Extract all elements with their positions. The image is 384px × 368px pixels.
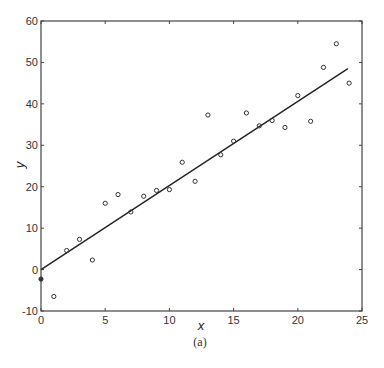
y-tick-label: 30: [26, 139, 38, 151]
data-point: [180, 160, 184, 164]
data-point: [321, 65, 325, 69]
x-tick-label: 10: [163, 314, 175, 326]
y-tick-label: 20: [26, 181, 38, 193]
regression-line: [41, 69, 348, 270]
y-tick-label: 10: [26, 222, 38, 234]
data-point: [116, 192, 120, 196]
y-tick-label: 40: [26, 98, 38, 110]
y-tick-label: 50: [26, 56, 38, 68]
data-point: [90, 258, 94, 262]
x-axis-label: x: [197, 318, 205, 333]
data-point: [334, 42, 338, 46]
x-tick-label: 25: [356, 314, 368, 326]
fitted-line: [41, 69, 348, 270]
data-point: [309, 119, 313, 123]
data-point: [167, 188, 171, 192]
scatter-plot: 0510152025-100102030405060 x y (a): [0, 0, 384, 368]
data-point: [103, 201, 107, 205]
y-tick-label: 60: [26, 15, 38, 27]
data-point: [244, 111, 248, 115]
axis-ticks: [41, 21, 362, 311]
x-tick-label: 20: [292, 314, 304, 326]
data-point: [232, 139, 236, 143]
data-point: [193, 179, 197, 183]
data-point: [142, 194, 146, 198]
data-point: [283, 125, 287, 129]
data-point: [296, 93, 300, 97]
data-point: [77, 237, 81, 241]
x-tick-label: 15: [227, 314, 239, 326]
data-point: [39, 277, 43, 281]
axes-frame: [41, 21, 362, 311]
y-tick-label: 0: [32, 264, 38, 276]
figure-caption: (a): [193, 335, 206, 349]
data-point: [154, 188, 158, 192]
data-point: [347, 81, 351, 85]
x-tick-label: 0: [38, 314, 44, 326]
x-tick-label: 5: [102, 314, 108, 326]
data-point: [219, 153, 223, 157]
plot-border: [41, 21, 362, 311]
data-point: [206, 113, 210, 117]
y-tick-label: -10: [22, 305, 38, 317]
y-axis-label: y: [12, 160, 27, 169]
data-points: [39, 42, 351, 299]
data-point: [52, 294, 56, 298]
axis-tick-labels: 0510152025-100102030405060: [22, 15, 368, 326]
